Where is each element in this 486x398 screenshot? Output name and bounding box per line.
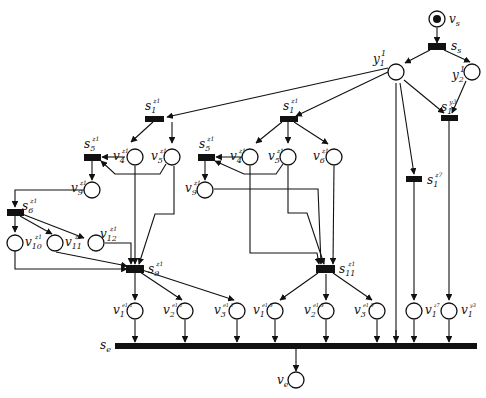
svg-text:s9z1: s9z1: [148, 260, 163, 278]
svg-text:v12z1: v12z1: [100, 225, 117, 243]
svg-text:s11z1: s11z1: [339, 260, 355, 278]
place-v11-z1: [47, 235, 63, 251]
svg-text:ve: ve: [277, 373, 289, 389]
place-y2: [464, 64, 480, 80]
transition-s9-z1: [126, 265, 144, 273]
arcs: [15, 28, 470, 371]
place-v4-z1-a: [127, 149, 143, 165]
svg-text:v1y3: v1y3: [461, 302, 476, 319]
svg-text:v10z1: v10z1: [25, 233, 42, 251]
svg-text:se: se: [100, 338, 111, 354]
transition-s1-z7: [406, 176, 422, 182]
place-v1-y3: [441, 303, 457, 319]
place-v1-z7: [406, 303, 422, 319]
place-y1: [388, 64, 404, 80]
labels: vs ss y11 y21 s1y3 s1z7 s1z1 v4z1 v5z1 s…: [22, 12, 476, 389]
svg-text:vs: vs: [449, 12, 460, 28]
svg-text:s1z7: s1z7: [427, 171, 442, 189]
svg-text:y11: y11: [372, 49, 386, 68]
svg-text:s5z1: s5z1: [84, 135, 99, 153]
transition-s1-z1-b: [280, 116, 298, 122]
transition-s1-z1-a: [145, 116, 164, 122]
svg-text:s5z1: s5z1: [199, 135, 214, 153]
transition-ss: [428, 43, 446, 50]
places: [7, 11, 480, 388]
svg-text:s1z1: s1z1: [283, 97, 298, 115]
transition-s11-z1: [316, 265, 335, 273]
token-icon: [433, 15, 441, 23]
place-v10-z1: [7, 235, 23, 251]
place-ve: [288, 372, 304, 388]
transition-se: [115, 343, 477, 349]
svg-text:v11z1: v11z1: [65, 233, 82, 251]
svg-text:s1z1: s1z1: [145, 97, 160, 115]
petri-net-diagram: vs ss y11 y21 s1y3 s1z7 s1z1 v4z1 v5z1 s…: [0, 0, 486, 398]
transition-s5-z1-a: [84, 154, 101, 161]
svg-text:ss: ss: [451, 39, 461, 55]
transition-s5-z1-b: [198, 154, 215, 161]
svg-text:s6z1: s6z1: [22, 197, 37, 215]
svg-text:v1z7: v1z7: [425, 302, 441, 319]
svg-text:y21: y21: [451, 65, 465, 84]
